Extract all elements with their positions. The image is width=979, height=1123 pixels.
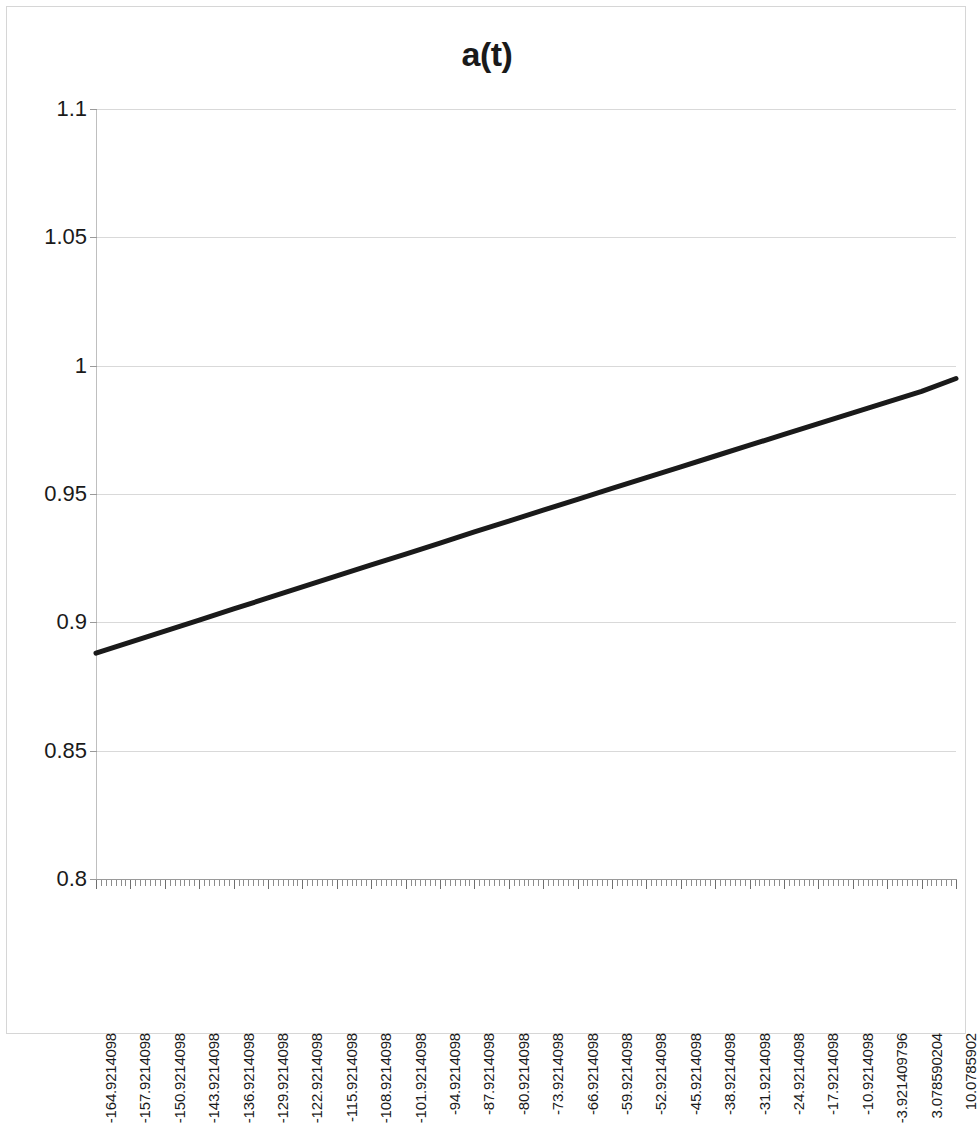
x-axis-minor-tick: [872, 880, 873, 886]
x-axis-major-tick: [130, 880, 131, 889]
x-axis-major-tick: [371, 880, 372, 889]
x-axis-minor-tick: [902, 880, 903, 886]
y-axis-tick-label: 0.9: [7, 609, 87, 635]
x-axis-tick-label: -164.9214098: [102, 1033, 119, 1123]
x-axis-minor-tick: [592, 880, 593, 886]
x-axis-minor-tick: [352, 880, 353, 886]
x-axis-major-tick: [509, 880, 510, 889]
data-series-line: [96, 109, 957, 880]
x-axis-minor-tick: [150, 880, 151, 886]
x-axis-minor-tick: [720, 880, 721, 886]
x-axis-minor-tick: [283, 880, 284, 886]
x-axis-minor-tick: [450, 880, 451, 886]
x-axis-minor-tick: [538, 880, 539, 886]
x-axis-minor-tick: [563, 880, 564, 886]
y-axis-tick-label: 1: [7, 353, 87, 379]
x-axis-minor-tick: [627, 880, 628, 886]
x-axis-major-tick: [646, 880, 647, 889]
x-axis-major-tick: [543, 880, 544, 889]
x-axis-minor-tick: [769, 880, 770, 886]
chart-title: a(t): [7, 35, 967, 74]
x-axis-minor-tick: [366, 880, 367, 886]
x-axis-minor-tick: [568, 880, 569, 886]
x-axis-minor-tick: [288, 880, 289, 886]
x-axis-minor-tick: [745, 880, 746, 886]
x-axis-minor-tick: [229, 880, 230, 886]
x-axis-minor-tick: [435, 880, 436, 886]
x-axis-minor-tick: [892, 880, 893, 886]
x-axis-minor-tick: [740, 880, 741, 886]
x-axis-minor-tick: [278, 880, 279, 886]
x-axis-minor-tick: [430, 880, 431, 886]
x-axis-minor-tick: [617, 880, 618, 886]
x-axis-minor-tick: [312, 880, 313, 886]
x-axis-minor-tick: [573, 880, 574, 886]
x-axis-tick-label: -66.9214098: [584, 1033, 601, 1115]
x-axis-tick-label: -87.9214098: [480, 1033, 497, 1115]
x-axis-minor-tick: [710, 880, 711, 886]
x-axis-minor-tick: [641, 880, 642, 886]
x-axis-tick-label: -31.9214098: [756, 1033, 773, 1115]
x-axis-minor-tick: [209, 880, 210, 886]
x-axis-minor-tick: [671, 880, 672, 886]
x-axis-tick-label: -17.9214098: [824, 1033, 841, 1115]
x-axis-minor-tick: [494, 880, 495, 886]
x-axis-minor-tick: [347, 880, 348, 886]
x-axis-minor-tick: [661, 880, 662, 886]
x-axis-major-tick: [784, 880, 785, 889]
x-axis-minor-tick: [386, 880, 387, 886]
x-axis-minor-tick: [676, 880, 677, 886]
x-axis-minor-tick: [499, 880, 500, 886]
x-axis-minor-tick: [204, 880, 205, 886]
x-axis-minor-tick: [317, 880, 318, 886]
x-axis-tick-label: -10.9214098: [859, 1033, 876, 1115]
x-axis-minor-tick: [637, 880, 638, 886]
x-axis-minor-tick: [705, 880, 706, 886]
x-axis-minor-tick: [219, 880, 220, 886]
x-axis-minor-tick: [651, 880, 652, 886]
x-axis-minor-tick: [170, 880, 171, 886]
x-axis-minor-tick: [401, 880, 402, 886]
x-axis-minor-tick: [725, 880, 726, 886]
x-axis-major-tick: [715, 880, 716, 889]
x-axis-minor-tick: [789, 880, 790, 886]
x-axis-minor-tick: [622, 880, 623, 886]
x-axis-minor-tick: [794, 880, 795, 886]
x-axis-minor-tick: [356, 880, 357, 886]
x-axis-minor-tick: [248, 880, 249, 886]
x-axis-minor-tick: [917, 880, 918, 886]
x-axis-minor-tick: [691, 880, 692, 886]
x-axis-minor-tick: [460, 880, 461, 886]
x-axis-tick-labels: -164.9214098-157.9214098-150.9214098-143…: [7, 891, 967, 1041]
x-axis-minor-tick: [602, 880, 603, 886]
x-axis-minor-tick: [553, 880, 554, 886]
x-axis-minor-tick: [587, 880, 588, 886]
x-axis-minor-tick: [907, 880, 908, 886]
x-axis-minor-tick: [239, 880, 240, 886]
x-axis-minor-tick: [848, 880, 849, 886]
y-axis-tick-mark: [90, 751, 97, 752]
x-axis-minor-tick: [843, 880, 844, 886]
x-axis-minor-tick: [106, 880, 107, 886]
x-axis-major-tick: [199, 880, 200, 889]
x-axis-minor-tick: [759, 880, 760, 886]
x-axis-minor-tick: [931, 880, 932, 886]
x-axis-minor-tick: [297, 880, 298, 886]
x-axis-minor-tick: [116, 880, 117, 886]
x-axis-tick-label: -59.9214098: [618, 1033, 635, 1115]
x-axis-tick-label: -115.9214098: [343, 1033, 360, 1122]
x-axis-minor-tick: [779, 880, 780, 886]
x-axis-tick-label: -38.9214098: [721, 1033, 738, 1115]
x-axis-minor-tick: [189, 880, 190, 886]
x-axis-tick-label: -3.921409796: [893, 1033, 910, 1123]
x-axis-major-tick: [302, 880, 303, 889]
x-axis-minor-tick: [548, 880, 549, 886]
x-axis-minor-tick: [583, 880, 584, 886]
x-axis-minor-tick: [293, 880, 294, 886]
x-axis-minor-tick: [175, 880, 176, 886]
x-axis-minor-tick: [863, 880, 864, 886]
x-axis-major-tick: [406, 880, 407, 889]
x-axis-minor-tick: [528, 880, 529, 886]
x-axis-tick-label: -108.9214098: [377, 1033, 394, 1123]
x-axis-minor-tick: [469, 880, 470, 886]
